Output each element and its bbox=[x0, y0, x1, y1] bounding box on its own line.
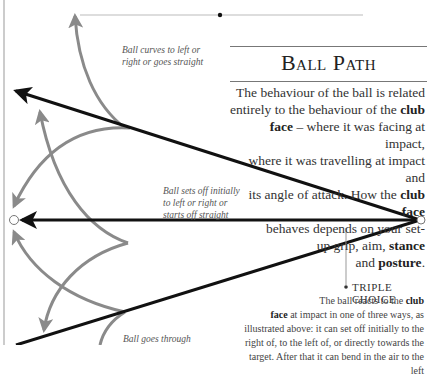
tc-line: The ball reacts to the club bbox=[234, 294, 424, 308]
intro-line: entirely to the behaviour of the club bbox=[230, 101, 425, 118]
curve-low-up bbox=[14, 232, 125, 312]
intro-line: up grip, aim, stance bbox=[230, 237, 425, 254]
tc-line: illustrated above: it can set off initia… bbox=[234, 322, 424, 336]
caption-line: right or goes straight bbox=[122, 56, 203, 68]
intro-line: its angle of attack. How the club face bbox=[230, 186, 425, 220]
tc-line: target. After that it can bend in the ai… bbox=[234, 350, 424, 378]
caption-line: Ball goes through bbox=[123, 333, 191, 345]
caption-goes-through: Ball goes through bbox=[123, 333, 191, 345]
caption-line: Ball curves to left or bbox=[122, 44, 203, 56]
caption-line: to left or right or bbox=[163, 197, 240, 209]
intro-line: and posture. bbox=[230, 254, 425, 271]
caption-line: starts off straight bbox=[163, 209, 240, 221]
curve-mid-up2 bbox=[42, 243, 128, 300]
page-title: Ball Path bbox=[230, 50, 427, 76]
intro-paragraph: The behaviour of the ball is related ent… bbox=[230, 84, 425, 271]
title-rule-top bbox=[230, 46, 427, 47]
top-rule-dot bbox=[218, 13, 222, 17]
curve-mid-up bbox=[40, 112, 128, 243]
caption-curves: Ball curves to left or right or goes str… bbox=[122, 44, 203, 68]
callout-dot bbox=[344, 285, 348, 289]
tc-line: face at impact in one of three ways, as bbox=[234, 308, 424, 322]
intro-line: face – where it was facing at impact, bbox=[230, 118, 425, 152]
target-marker bbox=[10, 216, 19, 225]
intro-line: where it was travelling at impact and bbox=[230, 152, 425, 186]
caption-line: Ball sets off initially bbox=[163, 185, 240, 197]
curve-mid-down bbox=[44, 243, 128, 330]
tc-line: right of, to the left of, or directly to… bbox=[234, 336, 424, 350]
triple-choice-paragraph: The ball reacts to the club face at impa… bbox=[234, 294, 424, 378]
caption-sets-off: Ball sets off initially to left or right… bbox=[163, 185, 240, 221]
intro-line: behaves depends on your set- bbox=[230, 220, 425, 237]
title-rule-bottom bbox=[230, 81, 427, 82]
intro-line: The behaviour of the ball is related bbox=[230, 84, 425, 101]
